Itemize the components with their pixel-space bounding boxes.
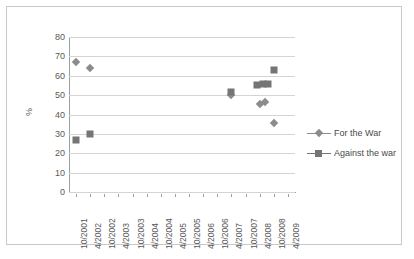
chart-frame: % 80706050403020100 10/20014/200210/2002… [6,6,402,245]
y-axis-tick-label: 50 [25,91,65,100]
data-point [270,119,278,127]
gridline [69,95,295,96]
gridline [69,173,295,174]
gridline [69,192,295,193]
y-axis-tick-label: 20 [25,149,65,158]
x-axis-tick-label: 10/2001 [80,218,89,249]
chart-legend: For the War Against the war [307,123,411,163]
y-axis-tick-label: 30 [25,130,65,139]
y-axis-tick-label: 70 [25,52,65,61]
y-axis-tick-labels: 80706050403020100 [21,37,65,192]
gridline [69,153,295,154]
gridline [69,115,295,116]
x-axis-tick-mark [175,194,176,197]
x-axis-tick-label: 10/2006 [221,218,230,249]
x-axis-tick-mark [260,194,261,197]
x-axis-tick-label: 10/2007 [250,218,259,249]
x-axis-tick-label: 10/2005 [193,218,202,249]
data-point [87,130,94,137]
gridline [69,56,295,57]
x-axis-tick-mark [246,194,247,197]
x-axis-tick-label: 10/2008 [278,218,287,249]
x-axis-tick-label: 4/2009 [292,223,301,249]
diamond-marker-icon [307,127,331,139]
gridline [69,76,295,77]
legend-label-against-the-war: Against the war [331,148,396,158]
data-point [270,66,277,73]
x-axis-tick-labels: 10/20014/200210/20024/200310/20034/20041… [69,194,296,252]
data-point [265,80,272,87]
x-axis-tick-label: 4/2008 [264,223,273,249]
x-axis-tick-label: 4/2006 [207,223,216,249]
legend-label-for-the-war: For the War [331,128,381,138]
x-axis-tick-mark [76,194,77,197]
x-axis-tick-mark [133,194,134,197]
x-axis-tick-label: 4/2003 [122,223,131,249]
x-axis-tick-label: 4/2007 [235,223,244,249]
x-axis-tick-label: 10/2004 [165,218,174,249]
y-axis-tick-label: 0 [25,188,65,197]
x-axis-tick-mark [161,194,162,197]
data-point [86,64,94,72]
x-axis-tick-mark [274,194,275,197]
legend-item-against-the-war[interactable]: Against the war [307,143,411,163]
x-axis-tick-mark [231,194,232,197]
legend-item-for-the-war[interactable]: For the War [307,123,411,143]
x-axis-tick-mark [90,194,91,197]
x-axis-tick-mark [118,194,119,197]
x-axis-tick-mark [217,194,218,197]
gridline [69,134,295,135]
data-point [72,58,80,66]
data-point [228,89,235,96]
square-marker-icon [307,147,331,159]
x-axis-tick-label: 4/2004 [151,223,160,249]
y-axis-tick-label: 60 [25,72,65,81]
x-axis-tick-mark [147,194,148,197]
x-axis-tick-mark [189,194,190,197]
x-axis-tick-label: 10/2002 [108,218,117,249]
x-axis-tick-label: 4/2005 [179,223,188,249]
y-axis-tick-label: 80 [25,33,65,42]
x-axis-tick-mark [288,194,289,197]
x-axis-tick-mark [203,194,204,197]
y-axis-tick-label: 40 [25,111,65,120]
x-axis-tick-label: 10/2003 [137,218,146,249]
x-axis-tick-mark [104,194,105,197]
data-point [73,136,80,143]
x-axis-tick-label: 4/2002 [94,223,103,249]
y-axis-tick-label: 10 [25,169,65,178]
plot-area [69,37,295,192]
gridline [69,37,295,38]
